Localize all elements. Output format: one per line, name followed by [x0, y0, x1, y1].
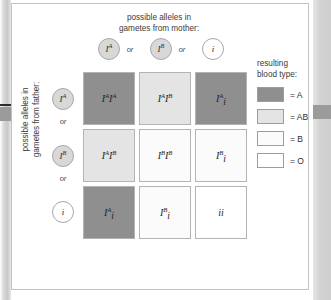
- mother-caption-line-1: possible alleles in: [127, 13, 191, 22]
- legend-title-line-1: resulting: [257, 59, 288, 68]
- genotype-label: IBIB: [158, 150, 173, 161]
- mother-caption-line-2: gametes from mother:: [119, 24, 199, 33]
- mother-or-label-2: or: [174, 45, 190, 54]
- legend-swatch-ab: [257, 109, 284, 124]
- punnett-cell-r2c3: IBi: [195, 129, 247, 182]
- father-allele-circle-IA: IA: [52, 88, 74, 110]
- father-caption-line-1: possible alleles in: [21, 87, 30, 151]
- father-gametes-caption: possible alleles in gametes from father:: [21, 55, 42, 185]
- legend-label-b: = B: [290, 134, 303, 144]
- legend: resulting blood type: = A = AB = B = O: [257, 59, 327, 175]
- mother-allele-label-2: IB: [158, 44, 165, 54]
- legend-title-line-2: blood type:: [257, 70, 297, 79]
- father-allele-circle-IB: IB: [52, 145, 74, 167]
- genotype-label: IAi: [216, 93, 226, 104]
- legend-swatch-b: [257, 131, 284, 146]
- genotype-label: IAIA: [102, 93, 117, 104]
- father-or-label-1: or: [52, 117, 74, 126]
- legend-item-o: = O: [257, 153, 327, 168]
- genotype-label: IBi: [216, 150, 226, 161]
- mother-allele-circle-IA: IA: [98, 38, 120, 60]
- father-allele-label-3: i: [62, 207, 65, 217]
- figure-sheet: possible alleles in gametes from mother:…: [11, 3, 309, 290]
- mother-allele-circle-i: i: [202, 38, 224, 60]
- punnett-cell-r3c3: ii: [195, 186, 247, 239]
- mother-gametes-caption: possible alleles in gametes from mother:: [74, 13, 244, 34]
- punnett-square-grid: IAIA IAIB IAi IAIB IBIB IBi IAi IBi ii: [83, 72, 247, 239]
- legend-item-b: = B: [257, 131, 327, 146]
- legend-swatch-o: [257, 153, 284, 168]
- genotype-label: IBi: [160, 207, 170, 218]
- page-left-edge-band: [0, 107, 11, 121]
- punnett-cell-r1c1: IAIA: [83, 72, 135, 125]
- father-or-label-2: or: [52, 174, 74, 183]
- mother-allele-circle-IB: IB: [150, 38, 172, 60]
- father-allele-label-2: IB: [60, 151, 67, 161]
- genotype-label: IAi: [104, 207, 114, 218]
- page-left-edge-shadow: [0, 0, 11, 300]
- legend-swatch-a: [257, 87, 284, 102]
- legend-item-a: = A: [257, 87, 327, 102]
- legend-label-a: = A: [290, 90, 303, 100]
- punnett-cell-r1c3: IAi: [195, 72, 247, 125]
- legend-title: resulting blood type:: [257, 59, 327, 80]
- legend-label-o: = O: [290, 156, 304, 166]
- punnett-cell-r2c2: IBIB: [139, 129, 191, 182]
- mother-allele-label-3: i: [212, 44, 215, 54]
- father-allele-label-1: IA: [60, 94, 67, 104]
- punnett-cell-r2c1: IAIB: [83, 129, 135, 182]
- legend-item-ab: = AB: [257, 109, 327, 124]
- punnett-cell-r1c2: IAIB: [139, 72, 191, 125]
- genotype-label: IAIB: [158, 93, 173, 104]
- mother-allele-label-1: IA: [106, 44, 113, 54]
- genotype-label: IAIB: [102, 150, 117, 161]
- father-caption-line-2: gametes from father:: [31, 82, 40, 158]
- punnett-cell-r3c2: IBi: [139, 186, 191, 239]
- mother-or-label-1: or: [122, 45, 138, 54]
- genotype-label: ii: [218, 207, 224, 218]
- legend-label-ab: = AB: [290, 112, 308, 122]
- father-allele-circle-i: i: [52, 201, 74, 223]
- punnett-cell-r3c1: IAi: [83, 186, 135, 239]
